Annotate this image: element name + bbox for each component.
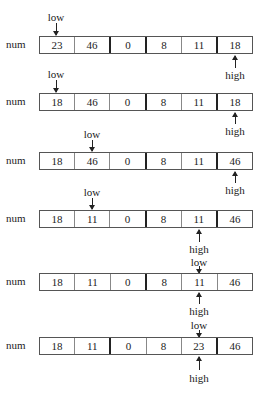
array-cell: 8 [145,274,181,290]
low-pointer-label-step-2: low [36,68,76,80]
array-label: num [6,275,26,287]
array-cells: 18 11 0 8 11 46 [39,273,253,291]
high-pointer-label-step-5: high [179,305,219,317]
array-cell: 18 [40,153,74,169]
array-cell: 8 [145,37,181,53]
array-cells: 18 11 0 8 23 46 [39,337,253,355]
low-pointer-label-step-1: low [36,11,76,23]
array-row-step-6: num 18 11 0 8 23 46 [0,337,267,355]
array-cells: 18 46 0 8 11 18 [39,93,253,111]
array-cell: 0 [109,211,144,227]
low-arrow-icon-step-6 [199,330,200,337]
high-pointer-label-step-6: high [179,372,219,384]
array-cell: 11 [181,153,216,169]
high-arrow-icon-step-1 [235,56,236,68]
array-label: num [6,38,26,50]
array-cell: 0 [109,153,144,169]
array-cell: 0 [109,37,145,53]
high-arrow-icon-step-3 [235,172,236,183]
array-cell: 0 [110,274,145,290]
array-cell: 46 [74,153,109,169]
low-arrow-icon-step-2 [56,80,57,92]
array-cell: 18 [40,338,74,354]
array-cell: 18 [216,94,252,110]
array-cell: 46 [216,153,252,169]
array-cell: 23 [40,37,74,53]
array-cell: 18 [40,211,74,227]
array-cell: 11 [74,211,109,227]
high-arrow-icon-step-5 [199,293,200,304]
array-row-step-3: num 18 46 0 8 11 46 [0,152,267,170]
array-cells: 18 11 0 8 11 46 [39,210,253,228]
low-arrow-icon-step-4 [92,198,93,209]
array-cell: 46 [74,94,109,110]
array-cell: 8 [145,153,181,169]
array-label: num [6,95,26,107]
array-cell: 23 [181,338,216,354]
array-cell: 18 [40,274,74,290]
high-pointer-label-step-3: high [215,184,255,196]
array-cells: 18 46 0 8 11 46 [39,152,253,170]
array-cell: 11 [74,338,109,354]
low-arrow-icon-step-1 [56,23,57,35]
high-arrow-icon-step-2 [235,113,236,124]
array-row-step-2: num 18 46 0 8 11 18 [0,93,267,111]
low-pointer-label-step-4: low [72,186,112,198]
array-cell: 11 [181,274,216,290]
array-row-step-4: num 18 11 0 8 11 46 [0,210,267,228]
array-cell: 11 [181,211,216,227]
high-pointer-label-step-2: high [215,125,255,137]
array-row-step-1: num 23 46 0 8 11 18 [0,36,267,54]
low-arrow-icon-step-3 [92,140,93,151]
high-pointer-label-step-4: high [179,243,219,255]
array-row-step-5: num 18 11 0 8 11 46 [0,273,267,291]
high-arrow-icon-step-4 [199,230,200,242]
array-cell: 11 [74,274,109,290]
array-cell: 46 [217,274,252,290]
low-arrow-icon-step-5 [199,266,200,273]
array-cell: 18 [216,37,252,53]
array-label: num [6,154,26,166]
array-cell: 11 [181,94,216,110]
array-label: num [6,212,26,224]
high-pointer-label-step-1: high [215,69,255,81]
array-cell: 8 [145,94,181,110]
array-cell: 8 [146,338,181,354]
low-pointer-label-step-3: low [72,128,112,140]
array-label: num [6,339,26,351]
array-cell: 11 [181,37,216,53]
array-cell: 46 [74,37,109,53]
array-cell: 0 [109,338,145,354]
array-cell: 8 [145,211,181,227]
array-cell: 46 [216,338,252,354]
array-cell: 0 [109,94,144,110]
high-arrow-icon-step-6 [199,357,200,370]
array-cells: 23 46 0 8 11 18 [39,36,253,54]
array-cell: 18 [40,94,74,110]
array-cell: 46 [216,211,252,227]
